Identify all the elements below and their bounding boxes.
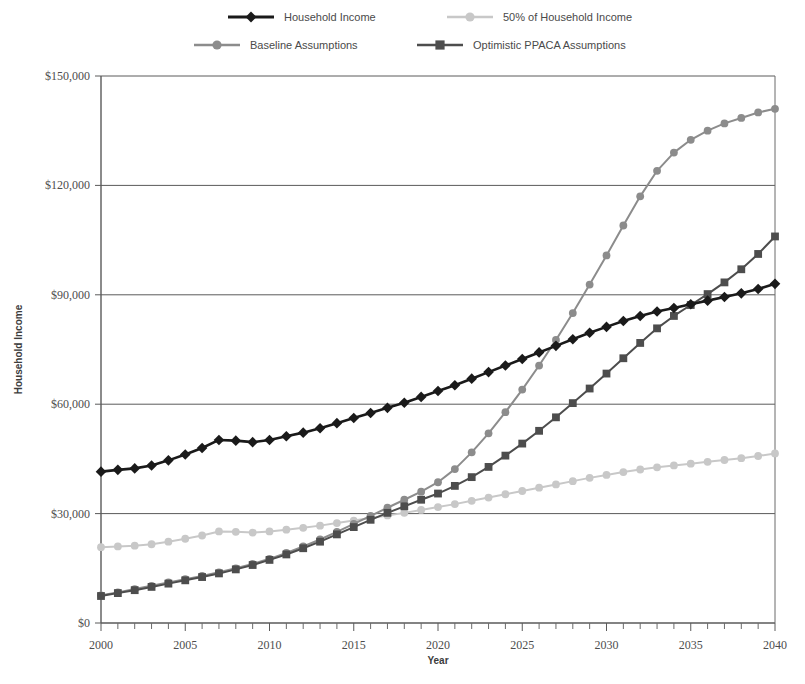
data-point bbox=[316, 538, 324, 546]
data-point bbox=[434, 478, 442, 486]
data-point bbox=[569, 477, 577, 485]
data-point bbox=[569, 399, 577, 407]
data-point bbox=[215, 528, 223, 536]
data-point bbox=[704, 458, 712, 466]
data-point bbox=[266, 528, 274, 536]
data-point bbox=[619, 468, 627, 476]
data-point bbox=[282, 526, 290, 534]
data-point bbox=[586, 474, 594, 482]
legend-label: Baseline Assumptions bbox=[250, 39, 358, 51]
data-point bbox=[181, 535, 189, 543]
chart-background bbox=[0, 0, 805, 684]
data-point bbox=[737, 114, 745, 122]
data-point bbox=[771, 105, 779, 113]
data-point bbox=[603, 471, 611, 479]
data-point bbox=[603, 370, 611, 378]
data-point bbox=[485, 429, 493, 437]
legend-marker bbox=[465, 12, 474, 21]
data-point bbox=[586, 385, 594, 393]
legend-label: 50% of Household Income bbox=[503, 11, 632, 23]
data-point bbox=[518, 440, 526, 448]
data-point bbox=[316, 522, 324, 530]
data-point bbox=[771, 233, 779, 241]
legend-item: Household Income bbox=[228, 11, 376, 23]
data-point bbox=[215, 570, 223, 578]
data-point bbox=[636, 192, 644, 200]
data-point bbox=[232, 528, 240, 536]
data-point bbox=[266, 556, 274, 564]
x-tick-label: 2015 bbox=[342, 638, 366, 652]
data-point bbox=[249, 529, 257, 537]
data-point bbox=[468, 448, 476, 456]
x-tick-label: 2005 bbox=[173, 638, 197, 652]
data-point bbox=[468, 473, 476, 481]
data-point bbox=[434, 503, 442, 511]
y-tick-label: $30,000 bbox=[51, 507, 90, 521]
data-point bbox=[198, 532, 206, 540]
y-tick-label: $60,000 bbox=[51, 397, 90, 411]
y-tick-label: $120,000 bbox=[45, 178, 90, 192]
data-point bbox=[148, 540, 156, 548]
data-point bbox=[249, 561, 257, 569]
data-point bbox=[687, 460, 695, 468]
data-point bbox=[198, 573, 206, 581]
x-tick-label: 2040 bbox=[763, 638, 787, 652]
legend-item: Baseline Assumptions bbox=[194, 39, 358, 51]
x-tick-label: 2025 bbox=[510, 638, 534, 652]
data-point bbox=[417, 506, 425, 514]
data-point bbox=[721, 279, 729, 287]
data-point bbox=[687, 136, 695, 144]
data-point bbox=[771, 450, 779, 458]
chart-figure: Household Income50% of Household IncomeB… bbox=[0, 0, 805, 684]
data-point bbox=[754, 452, 762, 460]
data-point bbox=[299, 544, 307, 552]
legend-label: Optimistic PPACA Assumptions bbox=[473, 39, 626, 51]
data-point bbox=[384, 509, 392, 517]
y-tick-label: $90,000 bbox=[51, 288, 90, 302]
data-point bbox=[737, 265, 745, 273]
data-point bbox=[165, 580, 173, 588]
data-point bbox=[451, 500, 459, 508]
y-tick-label: $0 bbox=[78, 616, 90, 630]
data-point bbox=[400, 502, 408, 510]
x-tick-label: 2000 bbox=[89, 638, 113, 652]
data-point bbox=[754, 109, 762, 117]
data-point bbox=[653, 167, 661, 175]
data-point bbox=[552, 481, 560, 489]
x-tick-label: 2010 bbox=[258, 638, 282, 652]
data-point bbox=[451, 482, 459, 490]
data-point bbox=[502, 408, 510, 416]
data-point bbox=[653, 463, 661, 471]
data-point bbox=[619, 222, 627, 230]
data-point bbox=[434, 490, 442, 498]
data-point bbox=[131, 542, 139, 550]
data-point bbox=[653, 324, 661, 332]
data-point bbox=[97, 543, 105, 551]
y-axis-title: Household Income bbox=[13, 304, 24, 394]
data-point bbox=[502, 490, 510, 498]
data-point bbox=[569, 309, 577, 317]
data-point bbox=[721, 120, 729, 128]
data-point bbox=[232, 565, 240, 573]
data-point bbox=[535, 427, 543, 435]
data-point bbox=[333, 530, 341, 538]
data-point bbox=[586, 281, 594, 289]
data-point bbox=[737, 454, 745, 462]
y-tick-label: $150,000 bbox=[45, 69, 90, 83]
data-point bbox=[367, 516, 375, 524]
data-point bbox=[535, 362, 543, 370]
data-point bbox=[721, 456, 729, 464]
x-tick-label: 2020 bbox=[426, 638, 450, 652]
data-point bbox=[619, 354, 627, 362]
data-point bbox=[485, 494, 493, 502]
data-point bbox=[754, 250, 762, 258]
data-point bbox=[670, 462, 678, 470]
x-tick-label: 2030 bbox=[595, 638, 619, 652]
data-point bbox=[518, 386, 526, 394]
data-point bbox=[165, 538, 173, 546]
data-point bbox=[451, 465, 459, 473]
data-point bbox=[518, 487, 526, 495]
data-point bbox=[114, 589, 122, 597]
data-point bbox=[131, 586, 139, 594]
data-point bbox=[485, 463, 493, 471]
